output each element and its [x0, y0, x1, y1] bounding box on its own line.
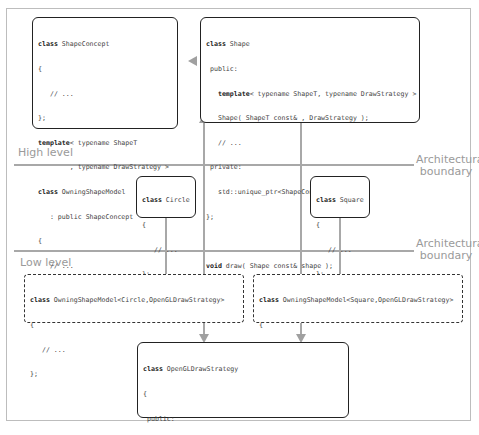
code-line: class Square	[316, 196, 364, 204]
architectural-boundary-top-label: Architectural boundary	[416, 154, 476, 178]
code-line: {	[142, 221, 190, 229]
code-line: public:	[143, 415, 343, 423]
connector-circle-to-shape	[203, 122, 205, 274]
code-line: {	[316, 221, 364, 229]
boundary-text-2: boundary	[416, 250, 476, 262]
owning-shape-model-circle-box: class OwningShapeModel<Circle,OpenGLDraw…	[24, 274, 244, 323]
shape-concept-box: class ShapeConcept { // ... }; template<…	[32, 17, 178, 129]
owning-shape-model-square-box: class OwningShapeModel<Square,OpenGLDraw…	[253, 274, 463, 323]
code-line: {	[38, 65, 172, 73]
shape-box: class Shape public: template< typename S…	[200, 17, 420, 123]
code-line: // ...	[206, 139, 414, 147]
code-line: class OwningShapeModel<Square,OpenGLDraw…	[259, 296, 457, 304]
arrow-left-icon	[188, 56, 197, 66]
code-line	[206, 237, 414, 245]
square-box: class Square { // ... };	[310, 176, 370, 218]
code-line: class OpenGLDrawStrategy	[143, 365, 343, 373]
code-line: {	[30, 321, 238, 329]
code-line: class OwningShapeModel<Circle,OpenGLDraw…	[30, 296, 238, 304]
circle-box: class Circle { // ... };	[136, 176, 196, 218]
code-line: {	[143, 390, 343, 398]
code-line: };	[38, 114, 172, 122]
code-line: , typename DrawStrategy >	[38, 163, 172, 171]
opengl-draw-strategy-box: class OpenGLDrawStrategy { public: void …	[137, 342, 349, 418]
code-line: Shape( ShapeT const& , DrawStrategy );	[206, 114, 414, 122]
code-line: template< typename ShapeT	[38, 139, 172, 147]
code-line: private:	[206, 163, 414, 171]
code-line: template< typename ShapeT, typename Draw…	[206, 90, 414, 98]
code-line: // ...	[38, 90, 172, 98]
code-line: class Shape	[206, 40, 414, 48]
code-line: {	[259, 321, 457, 329]
code-line: // ...	[142, 246, 190, 254]
boundary-text-2: boundary	[416, 166, 476, 178]
code-line: class Circle	[142, 196, 190, 204]
code-line: // ...	[316, 246, 364, 254]
code-line: public:	[206, 65, 414, 73]
code-line: class ShapeConcept	[38, 40, 172, 48]
architectural-boundary-bottom-label: Architectural boundary	[416, 238, 476, 262]
code-line: void draw( Shape const& shape );	[206, 262, 414, 270]
